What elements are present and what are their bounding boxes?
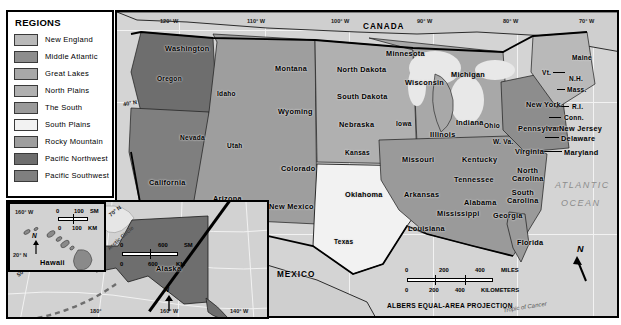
legend-item[interactable]: Pacific Southwest	[14, 167, 107, 184]
state-label[interactable]: N.H.	[569, 75, 583, 82]
scale-tick-mark	[435, 275, 436, 285]
legend-panel[interactable]: REGIONS New EnglandMiddle AtlanticGreat …	[6, 10, 114, 198]
state-label[interactable]: Wyoming	[278, 107, 313, 116]
state-label[interactable]: Conn.	[564, 114, 584, 121]
scale-unit-km: KM	[88, 225, 97, 231]
state-label[interactable]: Oregon	[157, 75, 182, 82]
state-label[interactable]: North Dakota	[337, 65, 386, 74]
state-label[interactable]: Arkansas	[404, 190, 439, 199]
longitude-label: 140° W	[230, 308, 248, 314]
scale-unit-km: KILOMETERS	[481, 287, 519, 293]
leader-line	[543, 151, 562, 152]
state-label[interactable]: Vt.	[542, 69, 551, 76]
legend-swatch	[14, 102, 38, 114]
legend-item[interactable]: South Plains	[14, 116, 107, 133]
state-label[interactable]: New Jersey	[559, 124, 602, 133]
scale-bar: 0 200 400 MILES 0 200 400 KILOMETERS	[405, 267, 555, 301]
scale-tick-mi: 0	[120, 242, 123, 248]
scale-tick-mark	[73, 214, 74, 224]
state-label[interactable]: Delaware	[561, 134, 595, 143]
state-label[interactable]: R.I.	[572, 103, 583, 110]
longitude-label: 120° W	[160, 18, 178, 24]
state-label[interactable]: Florida	[517, 238, 543, 247]
longitude-label: 100° W	[331, 18, 349, 24]
legend-item-label: Rocky Mountain	[45, 137, 103, 146]
scale-tick-mark	[150, 249, 151, 259]
legend-item[interactable]: Pacific Northwest	[14, 150, 107, 167]
state-label[interactable]: Ohio	[484, 122, 500, 129]
state-label[interactable]: Indiana	[456, 118, 484, 127]
legend-item-label: South Plains	[45, 120, 91, 129]
legend-item[interactable]: Rocky Mountain	[14, 133, 107, 150]
scale-unit-miles: SM	[184, 242, 193, 248]
state-label[interactable]: Illinois	[430, 130, 456, 139]
state-label[interactable]: W. Va.	[493, 138, 514, 145]
state-label[interactable]: Kentucky	[462, 155, 497, 164]
state-label[interactable]: Virginia	[515, 147, 544, 156]
hawaii-compass: N	[32, 232, 37, 239]
state-label[interactable]: South Dakota	[337, 92, 388, 101]
hawaii-label: Hawaii	[40, 258, 65, 267]
state-label[interactable]: Iowa	[396, 120, 412, 127]
compass-rose: N	[577, 244, 584, 254]
state-label[interactable]: Michigan	[451, 70, 485, 79]
state-label[interactable]: Nebraska	[339, 120, 374, 129]
state-label[interactable]: Kansas	[345, 149, 370, 156]
state-label[interactable]: Georgia	[493, 211, 523, 220]
longitude-label: 110° W	[247, 18, 265, 24]
longitude-label: 160° W	[15, 209, 33, 215]
state-label[interactable]: Nevada	[180, 134, 205, 141]
legend-rows: New EnglandMiddle AtlanticGreat LakesNor…	[14, 31, 107, 184]
state-label[interactable]: Idaho	[217, 90, 236, 97]
scale-tick-mi: 200	[439, 267, 449, 273]
legend-item-label: New England	[45, 35, 93, 44]
legend-item[interactable]: New England	[14, 31, 107, 48]
legend-item-label: Great Lakes	[45, 69, 89, 78]
scale-unit-km: KM	[176, 261, 185, 267]
legend-swatch	[14, 85, 38, 97]
projection-label: ALBERS EQUAL-AREA PROJECTION	[387, 302, 513, 309]
legend-item[interactable]: The South	[14, 99, 107, 116]
legend-swatch	[14, 68, 38, 80]
scale-tick-mi: 100	[74, 208, 84, 214]
ocean-label: OCEAN	[561, 198, 601, 208]
scale-tick-km: 0	[120, 261, 123, 267]
state-label[interactable]: Maine	[572, 54, 592, 61]
leader-line	[549, 117, 561, 118]
longitude-label: 70° W	[579, 18, 594, 24]
state-label[interactable]: Wisconsin	[405, 78, 444, 87]
compass-arrow-icon	[165, 295, 174, 311]
state-label[interactable]: New York	[526, 100, 561, 109]
longitude-label: 80° W	[503, 18, 518, 24]
legend-item-label: Pacific Northwest	[45, 154, 108, 163]
legend-item[interactable]: Middle Atlantic	[14, 48, 107, 65]
state-label[interactable]: Utah	[227, 142, 243, 149]
state-label[interactable]: Mississippi	[437, 209, 480, 218]
state-label[interactable]: Maryland	[564, 148, 598, 157]
compass-north-label: N	[32, 232, 37, 239]
legend-swatch	[14, 51, 38, 63]
hawaii-inset[interactable]: Hawaii 160° W 20° N 0 100 SM 0 100 KM N	[8, 202, 106, 272]
legend-item[interactable]: North Plains	[14, 82, 107, 99]
state-label[interactable]: Colorado	[281, 164, 315, 173]
scale-tick-mi: 600	[158, 242, 168, 248]
legend-item[interactable]: Great Lakes	[14, 65, 107, 82]
state-label[interactable]: Oklahoma	[345, 190, 383, 199]
scale-unit-miles: MILES	[501, 267, 519, 273]
state-label[interactable]: Washington	[165, 44, 209, 53]
state-label[interactable]: Texas	[334, 238, 353, 245]
state-label[interactable]: Minnesota	[386, 49, 425, 58]
state-label[interactable]: Alabama	[464, 198, 497, 207]
state-label[interactable]: California	[149, 178, 186, 187]
hawaii-scale-bar: 0 100 SM 0 100 KM	[56, 208, 106, 236]
state-label[interactable]: Montana	[275, 64, 307, 73]
state-label[interactable]: South Carolina	[507, 189, 539, 205]
state-label[interactable]: New Mexico	[269, 202, 314, 211]
state-label[interactable]: Louisiana	[408, 224, 445, 233]
state-label[interactable]: Missouri	[402, 155, 434, 164]
state-label[interactable]: North Carolina	[512, 167, 544, 183]
scale-tick-km: 600	[148, 261, 158, 267]
state-label[interactable]: Mass.	[567, 86, 587, 93]
compass-north-label: N	[164, 286, 169, 293]
state-label[interactable]: Tennessee	[454, 175, 494, 184]
